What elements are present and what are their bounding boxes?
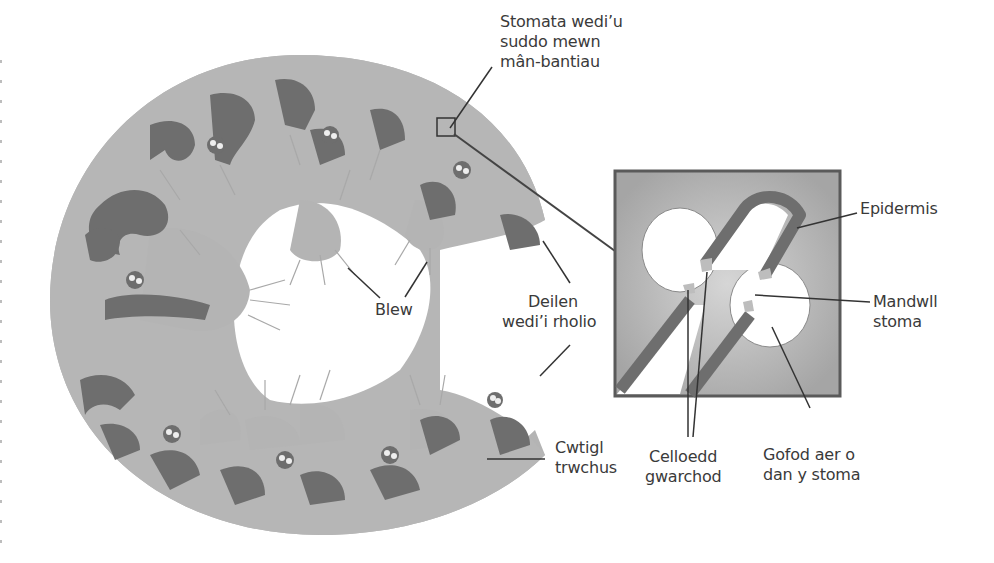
label-guard-cells: Celloedd gwarchod xyxy=(645,447,722,487)
label-rolled-leaf: Deilen wedi’i rholio xyxy=(502,292,596,332)
label-air-space: Gofod aer o dan y stoma xyxy=(763,445,860,485)
label-thick-cuticle: Cwtigl trwchus xyxy=(555,438,617,478)
label-stoma-pore: Mandwll stoma xyxy=(873,292,937,332)
stoma-inset xyxy=(615,171,840,396)
label-sunken-stomata: Stomata wedi’u suddo mewn mân-bantiau xyxy=(500,12,623,72)
label-epidermis: Epidermis xyxy=(860,199,938,219)
label-hairs: Blew xyxy=(375,300,413,320)
